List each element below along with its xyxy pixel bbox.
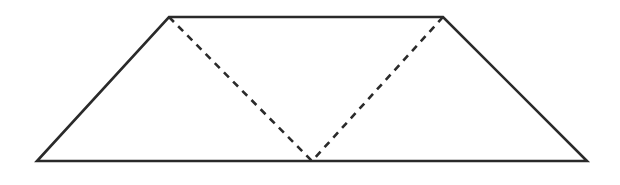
dashed-line-right (312, 17, 443, 161)
trapezoid-diagram (0, 0, 620, 185)
dashed-line-left (169, 17, 312, 161)
trapezoid-outline (37, 17, 587, 161)
